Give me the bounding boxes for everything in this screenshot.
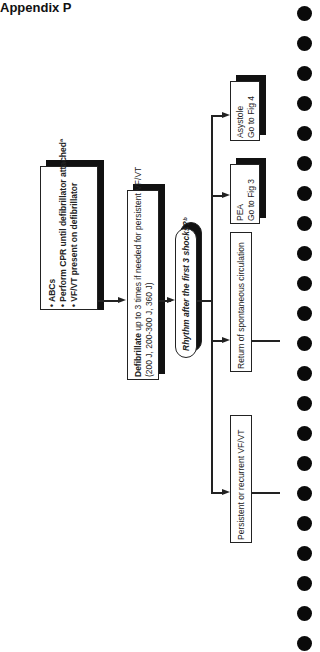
binder-hole: [297, 6, 312, 21]
connector-decision-trunk: [197, 300, 211, 302]
start-line-3: • VF/VT present on defibrillator: [69, 183, 79, 307]
binder-hole: [297, 606, 312, 621]
defib-line-1: Defibrillate up to 3 times if needed for…: [133, 167, 143, 377]
binder-hole: [297, 546, 312, 561]
binder-hole: [297, 246, 312, 261]
branch-trunk: [211, 115, 213, 493]
arrowhead-icon: [222, 112, 230, 118]
asystole-line-1: Asystole: [235, 106, 245, 138]
defib-line-1-rest: up to 3 times if needed for persistent V…: [133, 167, 143, 333]
connector-start-defib: [98, 300, 120, 302]
decision-label: Rhythm after the first 3 shocks?ᵇ: [181, 218, 191, 351]
arrowhead-icon: [222, 192, 230, 198]
defib-box: Defibrillate up to 3 times if needed for…: [127, 190, 159, 380]
outcome-persistent-box: Persistent or recurrent VF/VT: [230, 415, 252, 543]
arrowhead-icon: [222, 489, 230, 495]
defib-line-2: (200 J, 200-300 J, 360 J): [144, 282, 154, 377]
binder-hole: [297, 186, 312, 201]
binder-hole: [297, 96, 312, 111]
outcome-asystole-box: Asystole Go to Fig 4: [230, 81, 260, 141]
outcome-rosc-box: Return of spontaneous circulation: [230, 232, 252, 372]
start-line-2: • Perform CPR until defibrillator attach…: [58, 139, 68, 307]
start-box: • ABCs • Perform CPR until defibrillator…: [40, 166, 98, 310]
persistent-continuation: [252, 492, 280, 494]
binder-hole: [297, 426, 312, 441]
arrowhead-icon: [222, 337, 230, 343]
persistent-line-1: Persistent or recurrent VF/VT: [236, 429, 246, 540]
binder-hole: [297, 276, 312, 291]
binder-hole: [297, 576, 312, 591]
decision-pill: Rhythm after the first 3 shocks?ᵇ: [175, 228, 197, 358]
binder-hole: [297, 486, 312, 501]
binder-hole: [297, 366, 312, 381]
page-header: Appendix P: [0, 0, 72, 15]
pea-line-1: PEA: [235, 204, 245, 221]
pea-line-2: Go to Fig 3: [246, 179, 256, 221]
binder-hole: [297, 456, 312, 471]
binder-hole: [297, 216, 312, 231]
binder-hole: [297, 156, 312, 171]
binder-hole: [297, 36, 312, 51]
outcome-pea-box: PEA Go to Fig 3: [230, 164, 260, 224]
rosc-continuation: [252, 340, 280, 342]
binder-hole: [297, 636, 312, 651]
asystole-line-2: Go to Fig 4: [246, 96, 256, 138]
rosc-line-1: Return of spontaneous circulation: [236, 242, 246, 369]
binder-hole: [297, 126, 312, 141]
defib-bold-word: Defibrillate: [133, 333, 143, 377]
binder-hole: [297, 516, 312, 531]
binder-hole: [297, 66, 312, 81]
start-line-1: • ABCs: [47, 279, 57, 307]
arrowhead-icon: [118, 297, 126, 303]
binder-hole: [297, 396, 312, 411]
arrowhead-icon: [167, 297, 175, 303]
binder-hole: [297, 336, 312, 351]
binder-hole: [297, 306, 312, 321]
